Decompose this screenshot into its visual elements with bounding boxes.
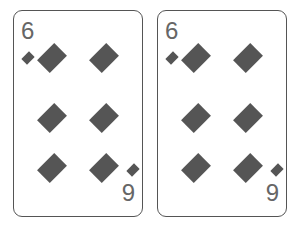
card-rank-bottom: 9: [122, 181, 135, 205]
diamond-icon: [89, 43, 119, 73]
diamond-icon: [233, 103, 263, 133]
diamond-icon: [37, 103, 67, 133]
diamond-icon: [181, 153, 211, 183]
diamond-icon: [37, 43, 67, 73]
diamond-icon: [37, 153, 67, 183]
playing-card-1[interactable]: 6 9: [13, 10, 143, 217]
diamond-icon: [21, 51, 34, 64]
diamond-icon: [165, 51, 178, 64]
card-rank-top: 6: [165, 19, 178, 43]
diamond-icon: [181, 103, 211, 133]
diamond-icon: [270, 163, 283, 176]
playing-card-2[interactable]: 6 9: [157, 10, 287, 217]
card-rank-top: 6: [21, 19, 34, 43]
diamond-icon: [126, 163, 139, 176]
card-rank-bottom: 9: [266, 181, 279, 205]
diamond-icon: [181, 43, 211, 73]
diamond-icon: [89, 153, 119, 183]
diamond-icon: [89, 103, 119, 133]
diamond-icon: [233, 153, 263, 183]
diamond-icon: [233, 43, 263, 73]
